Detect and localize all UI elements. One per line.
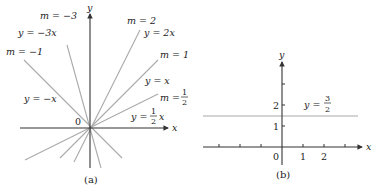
y-axis-label: y — [278, 49, 285, 60]
line-slope-neg3 — [67, 45, 101, 168]
svg-text:2: 2 — [325, 105, 330, 114]
x-axis-label: x — [172, 122, 178, 133]
label-eq-2x: y = 2x — [143, 27, 175, 38]
svg-text:2: 2 — [182, 98, 187, 107]
label-m-1: m = 1 — [160, 49, 189, 60]
line-slope-neg1 — [24, 60, 122, 158]
svg-text:x: x — [159, 111, 165, 122]
y-tick-1: 1 — [273, 121, 279, 132]
caption-b: (b) — [276, 169, 290, 180]
figure: x y 0 m = −3 y = −3x m = −1 y = −x m = 2… — [0, 0, 375, 190]
x-tick-1: 1 — [300, 151, 306, 162]
panel-b: x y 0 1 2 1 2 y = 3 2 (b) — [203, 49, 372, 180]
label-eq-neg3x: y = −3x — [17, 27, 57, 38]
label-m-neg3: m = −3 — [40, 10, 77, 21]
label-m-neg1: m = −1 — [6, 46, 43, 57]
svg-text:1: 1 — [151, 107, 156, 116]
caption-a: (a) — [84, 174, 98, 185]
label-eq-x: y = x — [144, 75, 170, 86]
label-y-three-halves: y = 3 2 — [303, 94, 331, 114]
svg-text:y =: y = — [303, 99, 320, 110]
y-tick-2: 2 — [273, 100, 279, 111]
svg-text:2: 2 — [151, 117, 156, 126]
origin-label: 0 — [75, 116, 81, 127]
svg-text:3: 3 — [325, 94, 330, 103]
label-eq-negx: y = −x — [23, 93, 57, 104]
label-m-2: m = 2 — [127, 15, 156, 26]
svg-text:y =: y = — [130, 111, 147, 122]
panel-a: x y 0 m = −3 y = −3x m = −1 y = −x m = 2… — [6, 2, 189, 185]
label-m-half: m = 1 2 — [160, 88, 188, 107]
x-tick-2: 2 — [321, 151, 327, 162]
label-eq-half-x: y = 1 2 x — [130, 107, 165, 126]
origin-label: 0 — [273, 151, 279, 162]
y-axis-label: y — [86, 2, 93, 13]
svg-text:m =: m = — [160, 92, 180, 103]
x-axis-label: x — [366, 141, 372, 152]
line-slope-2 — [74, 30, 140, 162]
svg-text:1: 1 — [182, 88, 187, 97]
